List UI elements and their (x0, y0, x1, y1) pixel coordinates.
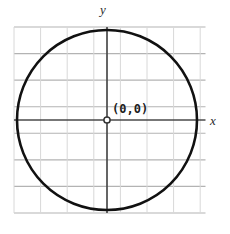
origin-point-marker (104, 117, 110, 123)
graph-figure: y x (0,0) (0, 0, 230, 234)
y-axis-label: y (100, 3, 106, 16)
coordinate-plane-plot (0, 0, 230, 234)
origin-coordinate-label: (0,0) (112, 103, 148, 115)
x-axis-label: x (210, 114, 216, 127)
